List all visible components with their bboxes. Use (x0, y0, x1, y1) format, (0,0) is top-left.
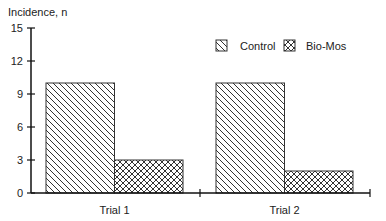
y-tick-label: 3 (17, 154, 23, 166)
legend-swatch-control (216, 40, 227, 51)
y-tick-label: 9 (17, 88, 23, 100)
bar-control-2 (216, 83, 285, 193)
y-tick-label: 15 (11, 22, 23, 34)
x-axis: Trial 1Trial 2 (31, 189, 370, 216)
bar-bio-mos-2 (285, 171, 354, 193)
y-tick-label: 6 (17, 121, 23, 133)
x-category-label: Trial 1 (99, 204, 129, 216)
legend-label-biomos: Bio-Mos (306, 40, 347, 52)
legend-swatch-biomos (284, 40, 295, 51)
y-tick-label: 12 (11, 55, 23, 67)
legend: Control Bio-Mos (216, 40, 347, 52)
bar-chart: Incidence, n 03691215 Trial 1Trial 2 Con… (0, 0, 386, 221)
legend-label-control: Control (240, 40, 275, 52)
y-tick-label: 0 (17, 187, 23, 199)
x-category-label: Trial 2 (269, 204, 299, 216)
y-axis-label: Incidence, n (8, 6, 67, 18)
y-axis: 03691215 (11, 22, 35, 199)
bars (46, 83, 353, 193)
bar-bio-mos-1 (115, 160, 184, 193)
bar-control-1 (46, 83, 115, 193)
